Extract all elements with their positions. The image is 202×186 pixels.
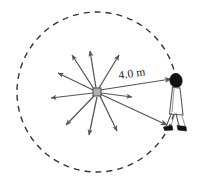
arrow-left [51, 93, 93, 98]
person-leg-front-outer [182, 114, 186, 126]
person-torso [170, 88, 184, 116]
listener-figure [164, 72, 187, 131]
distance-label: 4.0 m [118, 65, 147, 81]
arrow-up-left-far [58, 73, 93, 90]
sound-source-diagram: 4.0 m [0, 0, 202, 186]
diagram-canvas: 4.0 m [0, 0, 202, 186]
arrow-to-feet [100, 94, 167, 125]
arrow-up [90, 51, 96, 88]
arrow-down [89, 97, 97, 135]
radiating-arrow-group [51, 51, 132, 135]
person-shoe-front [177, 126, 187, 132]
arrow-to-head [100, 79, 171, 90]
person-shoe-back [164, 126, 174, 131]
person-leg-front [176, 114, 179, 127]
person-head-icon [168, 72, 183, 89]
point-source-marker [93, 88, 101, 96]
arrow-up-left [72, 55, 94, 89]
arrow-down-left [66, 96, 94, 125]
arrow-up-right [99, 55, 119, 88]
